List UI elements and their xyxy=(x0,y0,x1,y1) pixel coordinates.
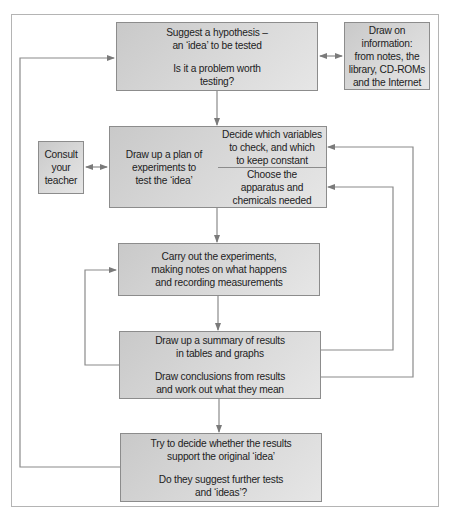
information-box: Draw on information: from notes, the lib… xyxy=(344,22,430,90)
plan-box: Draw up a plan of experiments to test th… xyxy=(109,126,327,208)
apparatus-text-2: apparatus and xyxy=(241,181,304,194)
plan-text-3: test the ‘idea’ xyxy=(135,174,192,187)
plan-variables: Decide which variables to check, and whi… xyxy=(218,127,326,168)
variables-text-3: to keep constant xyxy=(236,154,308,167)
hypothesis-text-2: an ‘idea’ to be tested xyxy=(172,39,261,52)
experiments-text-3: and recording measurements xyxy=(155,276,282,289)
experiments-box: Carry out the experiments, making notes … xyxy=(118,243,320,296)
evaluate-box: Try to decide whether the results suppor… xyxy=(120,433,322,502)
evaluate-text-2: support the original ‘idea’ xyxy=(167,450,275,463)
consult-text-2: your xyxy=(51,161,70,174)
summary-text-3: Draw conclusions from results xyxy=(155,370,285,383)
summary-text-2: in tables and graphs xyxy=(176,347,264,360)
apparatus-text-1: Choose the xyxy=(247,168,297,181)
plan-apparatus: Choose the apparatus and chemicals neede… xyxy=(218,168,326,207)
consult-teacher-box: Consult your teacher xyxy=(38,141,84,194)
information-text-5: and the Internet xyxy=(353,76,421,89)
plan-main: Draw up a plan of experiments to test th… xyxy=(110,127,218,207)
evaluate-text-3: Do they suggest further tests xyxy=(159,473,283,486)
experiments-text-2: making notes on what happens xyxy=(151,263,286,276)
variables-text-2: to check, and which xyxy=(229,141,315,154)
information-text-4: library, CD-ROMs xyxy=(349,63,425,76)
loop-summary-to-apparatus xyxy=(321,187,393,350)
variables-text-1: Decide which variables xyxy=(222,128,322,141)
hypothesis-box: Suggest a hypothesis – an ‘idea’ to be t… xyxy=(116,22,318,91)
evaluate-text-1: Try to decide whether the results xyxy=(151,437,292,450)
hypothesis-text-1: Suggest a hypothesis – xyxy=(166,26,268,39)
plan-text-2: experiments to xyxy=(132,161,196,174)
summary-box: Draw up a summary of results in tables a… xyxy=(119,331,321,399)
information-text-1: Draw on xyxy=(369,24,406,37)
hypothesis-text-3: Is it a problem worth xyxy=(173,62,261,75)
loop-conclusions-to-variables xyxy=(321,147,413,377)
loop-evaluate-to-hypothesis xyxy=(20,58,120,467)
summary-text-1: Draw up a summary of results xyxy=(155,334,285,347)
information-text-2: information: xyxy=(362,37,413,50)
summary-text-4: and work out what they mean xyxy=(156,383,284,396)
loop-summary-to-experiments xyxy=(85,270,119,365)
evaluate-text-4: and ‘ideas’? xyxy=(195,486,247,499)
information-text-3: from notes, the xyxy=(355,50,420,63)
apparatus-text-3: chemicals needed xyxy=(233,194,312,207)
experiments-text-1: Carry out the experiments, xyxy=(162,250,277,263)
hypothesis-text-4: testing? xyxy=(200,75,234,88)
plan-text-1: Draw up a plan of xyxy=(126,148,202,161)
consult-text-3: teacher xyxy=(45,174,78,187)
consult-text-1: Consult xyxy=(44,148,77,161)
